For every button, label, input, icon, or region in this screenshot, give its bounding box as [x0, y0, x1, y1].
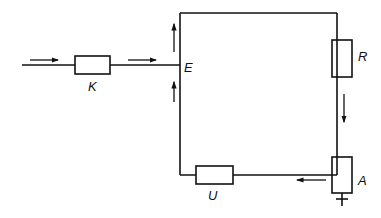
label-a: A	[358, 174, 367, 187]
circuit-diagram: K E R A U	[0, 0, 381, 218]
block-r	[332, 40, 352, 77]
label-r: R	[358, 50, 367, 63]
label-e: E	[184, 61, 193, 74]
label-u: U	[208, 189, 217, 202]
block-k	[75, 56, 110, 74]
label-k: K	[88, 80, 97, 93]
circuit-svg	[0, 0, 381, 218]
block-u	[196, 166, 233, 184]
